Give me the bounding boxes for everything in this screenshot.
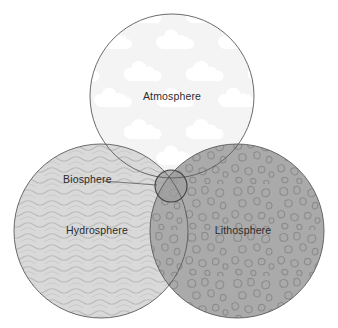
- label-hydrosphere: Hydrosphere: [66, 224, 128, 236]
- venn-diagram-canvas: Atmosphere Hydrosphere Lithosphere Biosp…: [0, 0, 338, 328]
- label-atmosphere: Atmosphere: [143, 90, 201, 102]
- venn-diagram: Atmosphere Hydrosphere Lithosphere Biosp…: [0, 0, 338, 328]
- label-lithosphere: Lithosphere: [215, 224, 272, 236]
- label-biosphere: Biosphere: [63, 173, 112, 185]
